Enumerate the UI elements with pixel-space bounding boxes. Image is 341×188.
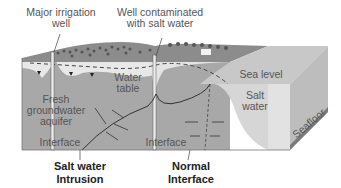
label-interface-left: Interface xyxy=(38,137,82,148)
label-contaminated-well: Well contaminated with salt water xyxy=(110,7,210,29)
label-line: Normal xyxy=(166,160,216,173)
label-line: well xyxy=(16,18,106,29)
leader-normal xyxy=(188,150,190,160)
label-salt-water-intrusion: Salt water Intrusion xyxy=(48,160,112,186)
label-salt-water: Salt water xyxy=(240,90,270,112)
label-line: Intrusion xyxy=(48,173,112,186)
label-fresh-aquifer: Fresh groundwater aquifer xyxy=(24,94,88,127)
label-line: Salt water xyxy=(48,160,112,173)
label-line: Interface xyxy=(166,173,216,186)
label-water-table: Water table xyxy=(108,72,148,94)
label-sea-level: Sea level xyxy=(236,69,286,80)
label-line: with salt water xyxy=(110,18,210,29)
label-interface-right: Interface xyxy=(144,137,188,148)
salt-box-front xyxy=(268,84,290,150)
label-irrigation-well: Major irrigation well xyxy=(16,7,106,29)
house xyxy=(201,49,211,55)
label-normal-interface: Normal Interface xyxy=(166,160,216,186)
label-line: table xyxy=(108,83,148,94)
label-line: aquifer xyxy=(24,116,88,127)
label-line: water xyxy=(240,101,270,112)
